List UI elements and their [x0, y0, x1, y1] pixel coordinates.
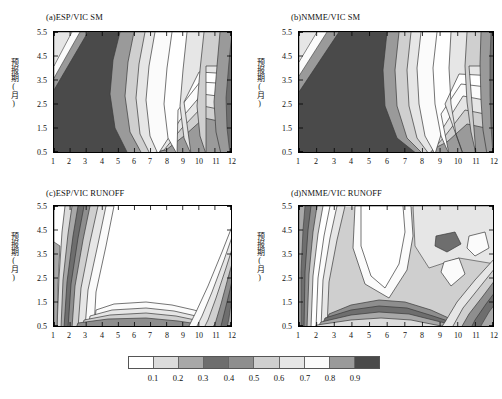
panel-c-ytick-1: 4.5 — [25, 226, 47, 235]
panel-a-xtick-9: 9 — [176, 157, 190, 166]
panel-d-xtick-2: 2 — [309, 331, 323, 340]
panel-c-xtick-9: 9 — [176, 331, 190, 340]
panel-a-xtick-12: 12 — [225, 157, 239, 166]
panel-d-ytick-5: 0.5 — [270, 322, 292, 331]
panel-a-title: (a)ESP/VIC SM — [46, 12, 103, 22]
colorbar: 0.1 0.2 0.3 0.4 0.5 0.6 0.7 0.8 0.9 — [0, 352, 502, 399]
panel-d-ytick-0: 5.5 — [270, 202, 292, 211]
panel-b-xtick-3: 3 — [327, 157, 341, 166]
colorbar-label-6: 0.7 — [293, 373, 317, 383]
panel-a-xtick-8: 8 — [160, 157, 174, 166]
panel-b-ytick-1: 4.5 — [270, 52, 292, 61]
panel-b-xtick-9: 9 — [433, 157, 447, 166]
panel-d-xtick-6: 6 — [380, 331, 394, 340]
panel-b-ytick-5: 0.5 — [270, 148, 292, 157]
panel-c-xtick-5: 5 — [111, 331, 125, 340]
panel-a-ytick-1: 4.5 — [25, 52, 47, 61]
panel-c-xtick-6: 6 — [127, 331, 141, 340]
panel-b-ytick-3: 2.5 — [270, 100, 292, 109]
axis-ticks — [299, 32, 493, 152]
panel-d-ytick-3: 2.5 — [270, 274, 292, 283]
panel-c-xtick-1: 1 — [46, 331, 60, 340]
colorbar-label-5: 0.6 — [267, 373, 291, 383]
panel-a-xtick-3: 3 — [78, 157, 92, 166]
panel-d-ytick-4: 1.5 — [270, 298, 292, 307]
colorbar-label-3: 0.4 — [217, 373, 241, 383]
panel-b-ylabel: 预报期(月) — [255, 58, 263, 108]
panel-d-plot — [298, 205, 494, 327]
figure-contour-grid: (a)ESP/VIC SM 预报期(月) 5.5 4.5 3.5 2.5 1.5… — [0, 0, 502, 399]
panel-a-xtick-6: 6 — [127, 157, 141, 166]
panel-a-xtick-11: 11 — [209, 157, 223, 166]
colorbar-segment-7 — [305, 357, 330, 368]
panel-a-ytick-4: 1.5 — [25, 124, 47, 133]
panel-a-ytick-5: 0.5 — [25, 148, 47, 157]
panel-c-xtick-4: 4 — [95, 331, 109, 340]
panel-c-title: (c)ESP/VIC RUNOFF — [46, 188, 124, 198]
panel-b-xtick-10: 10 — [451, 157, 465, 166]
colorbar-label-1: 0.2 — [166, 373, 190, 383]
panel-d-xtick-12: 12 — [487, 331, 501, 340]
panel-d-ytick-1: 4.5 — [270, 226, 292, 235]
panel-c-xtick-2: 2 — [62, 331, 76, 340]
panel-a-ytick-0: 5.5 — [25, 28, 47, 37]
panel-c-xtick-10: 10 — [192, 331, 206, 340]
panel-b-xtick-12: 12 — [487, 157, 501, 166]
panel-c-ytick-4: 1.5 — [25, 298, 47, 307]
panel-b: (b)NMME/VIC SM 预报期(月) 5.5 4.5 3.5 2.5 1.… — [251, 0, 502, 186]
panel-a-xtick-4: 4 — [95, 157, 109, 166]
panel-d-xtick-11: 11 — [469, 331, 483, 340]
colorbar-label-7: 0.8 — [318, 373, 342, 383]
colorbar-label-2: 0.3 — [191, 373, 215, 383]
panel-d-xtick-9: 9 — [433, 331, 447, 340]
panel-d-ylabel: 预报期(月) — [255, 232, 263, 282]
panel-d-xtick-10: 10 — [451, 331, 465, 340]
panel-b-ytick-2: 3.5 — [270, 76, 292, 85]
panel-b-xtick-4: 4 — [344, 157, 358, 166]
panel-c-xtick-12: 12 — [225, 331, 239, 340]
panel-b-title: (b)NMME/VIC SM — [291, 12, 360, 22]
panel-c-plot — [53, 205, 232, 327]
axis-ticks — [299, 206, 493, 326]
panel-a-ytick-2: 3.5 — [25, 76, 47, 85]
panel-a: (a)ESP/VIC SM 预报期(月) 5.5 4.5 3.5 2.5 1.5… — [0, 0, 251, 186]
colorbar-segment-4 — [229, 357, 254, 368]
panel-a-xtick-1: 1 — [46, 157, 60, 166]
panel-d-title: (d)NMME/VIC RUNOFF — [291, 188, 382, 198]
panel-d-xtick-7: 7 — [398, 331, 412, 340]
panel-c-xtick-8: 8 — [160, 331, 174, 340]
panel-b-xtick-2: 2 — [309, 157, 323, 166]
panel-b-xtick-11: 11 — [469, 157, 483, 166]
panel-d-xtick-1: 1 — [291, 331, 305, 340]
panel-a-xtick-10: 10 — [192, 157, 206, 166]
axis-ticks — [54, 32, 231, 152]
panel-b-plot — [298, 31, 494, 153]
colorbar-segment-9 — [355, 357, 379, 368]
axis-ticks — [54, 206, 231, 326]
panel-c-xtick-7: 7 — [143, 331, 157, 340]
colorbar-segment-1 — [154, 357, 179, 368]
panel-c: (c)ESP/VIC RUNOFF 预报期(月) 5.5 4.5 3.5 2.5… — [0, 178, 251, 354]
panel-d-xtick-8: 8 — [415, 331, 429, 340]
colorbar-label-4: 0.5 — [242, 373, 266, 383]
panel-b-xtick-7: 7 — [398, 157, 412, 166]
panel-d-ytick-2: 3.5 — [270, 250, 292, 259]
panel-c-ytick-2: 3.5 — [25, 250, 47, 259]
panel-a-plot — [53, 31, 232, 153]
panel-b-xtick-1: 1 — [291, 157, 305, 166]
panel-a-xtick-5: 5 — [111, 157, 125, 166]
panel-b-xtick-6: 6 — [380, 157, 394, 166]
panel-d-xtick-4: 4 — [344, 331, 358, 340]
panel-c-ytick-5: 0.5 — [25, 322, 47, 331]
panel-c-ytick-0: 5.5 — [25, 202, 47, 211]
colorbar-segment-6 — [280, 357, 305, 368]
panel-c-xtick-3: 3 — [78, 331, 92, 340]
colorbar-segment-3 — [204, 357, 229, 368]
panel-a-ytick-3: 2.5 — [25, 100, 47, 109]
colorbar-label-8: 0.9 — [343, 373, 367, 383]
panel-d: (d)NMME/VIC RUNOFF 预报期(月) 5.5 4.5 3.5 2.… — [251, 178, 502, 354]
colorbar-segment-8 — [330, 357, 355, 368]
panel-b-ytick-0: 5.5 — [270, 28, 292, 37]
panel-b-ytick-4: 1.5 — [270, 124, 292, 133]
panel-b-xtick-8: 8 — [415, 157, 429, 166]
